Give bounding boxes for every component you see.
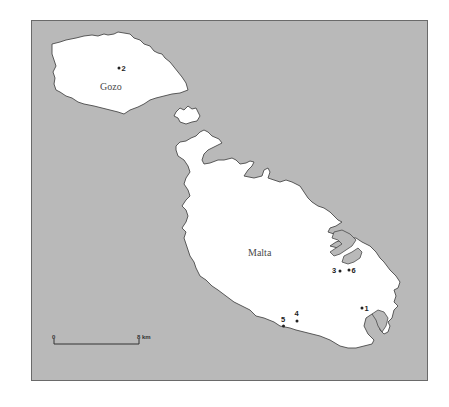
site-number: 2 (122, 64, 126, 73)
island-gozo (52, 32, 188, 114)
site-number: 3 (332, 266, 336, 275)
site-marker-dot (361, 307, 364, 310)
map-canvas: Gozo Malta 2 3 6 1 4 5 0 8 km (0, 0, 449, 407)
scale-start-label: 0 (52, 334, 56, 340)
scale-bar-line (54, 339, 139, 344)
label-gozo: Gozo (100, 81, 122, 92)
scale-bar: 0 8 km (52, 334, 151, 344)
island-comino (174, 106, 200, 124)
site-marker-dot (348, 269, 351, 272)
site-number: 5 (281, 315, 285, 324)
island-malta (176, 130, 400, 348)
label-malta: Malta (248, 247, 272, 258)
site-marker-dot (282, 325, 285, 328)
site-marker-dot (296, 320, 299, 323)
scale-end-label: 8 km (137, 334, 151, 340)
site-number: 6 (352, 266, 356, 275)
site-marker-dot (118, 67, 121, 70)
site-number: 1 (365, 304, 369, 313)
site-marker-dot (339, 270, 342, 273)
